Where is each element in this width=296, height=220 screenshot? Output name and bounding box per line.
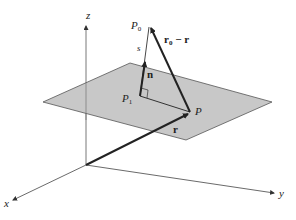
- point-P1-letter: P: [122, 92, 129, 104]
- y-axis: [86, 165, 274, 193]
- distance-s-label: s: [137, 44, 141, 53]
- x-axis-label: x: [4, 198, 9, 209]
- point-P1-label: P1: [122, 93, 132, 106]
- diagram-canvas: [0, 0, 296, 220]
- diagram: z x y P0 s n P1 P r r0 − r: [0, 0, 296, 220]
- y-axis-label: y: [279, 188, 284, 199]
- x-axis: [13, 165, 86, 200]
- point-P1-subscript: 1: [129, 98, 133, 106]
- z-axis-label: z: [86, 10, 90, 21]
- vector-r-label: r: [173, 124, 178, 135]
- point-P0-subscript: 0: [138, 25, 142, 33]
- point-P0-label: P0: [131, 20, 141, 33]
- minus-r: − r: [172, 33, 189, 45]
- vector-r0-minus-r-label: r0 − r: [164, 34, 189, 47]
- point-P-label: P: [195, 106, 202, 117]
- point-P0-letter: P: [131, 19, 138, 31]
- normal-n-label: n: [147, 69, 153, 80]
